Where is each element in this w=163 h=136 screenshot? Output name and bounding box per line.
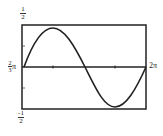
y-max-denominator: 2 — [21, 14, 25, 21]
x-max-label: 2π — [149, 62, 157, 70]
y-max-label: 1 2 — [20, 6, 26, 21]
y-min-denominator: 2 — [19, 118, 23, 125]
y-min-label: -1 2 — [18, 110, 24, 125]
x-min-pi: π — [12, 62, 16, 71]
x-min-denominator: 3 — [9, 67, 12, 73]
y-min-numerator: -1 — [18, 110, 24, 117]
y-max-numerator: 1 — [21, 6, 25, 13]
x-min-label: 2 3 π — [8, 60, 16, 73]
